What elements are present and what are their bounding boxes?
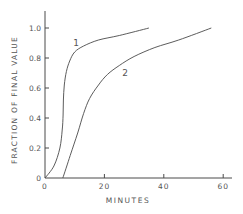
x-tick-label: 20 [99,182,111,191]
data-curves [45,28,211,178]
line-chart: 020406000.20.40.60.81.0 12 [0,0,243,214]
curve-labels: 12 [73,38,128,78]
x-tick-label: 60 [217,182,229,191]
y-tick-label: 0.4 [29,114,41,123]
curve-1 [45,28,149,178]
x-tick-label: 0 [42,182,48,191]
axes [45,11,232,178]
x-tick-label: 40 [158,182,170,191]
y-tick-label: 0.2 [29,144,41,153]
y-tick-label: 0.8 [29,54,41,63]
curve-label-1: 1 [73,38,79,48]
x-axis-label: MINUTES [106,196,150,205]
curve-2 [63,28,211,178]
y-tick-label: 1.0 [29,24,41,33]
axis-ticks: 020406000.20.40.60.81.0 [29,24,229,192]
y-tick-label: 0 [36,174,41,183]
curve-label-2: 2 [122,68,128,78]
y-tick-label: 0.6 [29,84,41,93]
y-axis-label: FRACTION OF FINAL VALUE [10,36,19,164]
